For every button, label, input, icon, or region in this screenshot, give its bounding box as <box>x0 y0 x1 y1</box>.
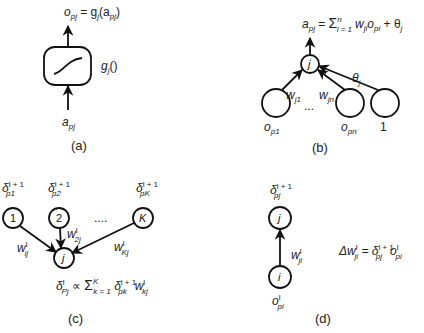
panel-d-caption: (d) <box>315 311 331 326</box>
panel-b-ellipsis: ... <box>304 99 314 113</box>
panel-c-node-2-label: 2 <box>56 212 62 224</box>
panel-b-weight-1: wj1 <box>286 88 301 104</box>
panel-d: δl + 1pj j wlji i olpi Δwlji = δl + 1pjo… <box>269 182 402 326</box>
panel-c-delta-1: δl + 1p1 <box>2 180 25 198</box>
panel-a: opj = gj(apj) gj() apj (a) <box>44 5 120 153</box>
panel-c-weight-2: wl2j <box>67 226 81 244</box>
backprop-diagram: opj = gj(apj) gj() apj (a) apj = Σni = 1… <box>0 0 424 333</box>
panel-d-weight-label: wlji <box>291 247 302 265</box>
panel-a-output-equation: opj = gj(apj) <box>64 5 120 21</box>
panel-d-top-label: δl + 1pj <box>270 182 293 200</box>
panel-b-theta-label: θj <box>352 71 361 87</box>
panel-c-delta-2: δl + 1p2 <box>48 180 71 198</box>
panel-b-edge-1 <box>282 70 302 90</box>
panel-b-bias-node <box>371 89 399 117</box>
panel-c-equation: δlPj ∝ ΣKk = 1 δl + 1pkwlkj <box>56 277 148 296</box>
panel-c-weight-K: wlKj <box>114 239 129 257</box>
panel-b-caption: (b) <box>312 140 328 155</box>
panel-b-bias-label: 1 <box>380 120 387 134</box>
panel-c-weight-1: wlij <box>17 240 28 258</box>
panel-b-input-label-n: opn <box>341 120 357 136</box>
panel-c-delta-K: δl + 1pK <box>136 180 159 198</box>
panel-a-input-label: apj <box>62 115 75 131</box>
sigmoid-activation-box <box>44 47 91 85</box>
panel-c-caption: (c) <box>68 311 83 326</box>
panel-c-node-1-label: 1 <box>10 212 16 224</box>
panel-c-edge-2 <box>60 228 61 248</box>
panel-b-weight-n: wjn <box>319 88 334 104</box>
panel-a-caption: (a) <box>71 138 87 153</box>
panel-b-equation: apj = Σni = 1wjiopi + θj <box>302 15 403 34</box>
panel-b-input-node-n <box>336 89 364 117</box>
panel-c-ellipsis: .... <box>94 211 107 225</box>
panel-a-function-label: gj() <box>101 59 117 75</box>
panel-d-equation: Δwlji = δl + 1pjolpi <box>338 243 402 261</box>
panel-d-bottom-label: olpi <box>272 293 284 311</box>
panel-b-input-label-1: op1 <box>264 120 280 136</box>
panel-b-edge-n <box>318 70 345 90</box>
panel-c-node-K-label: K <box>139 212 147 224</box>
panel-b: apj = Σni = 1wjiopi + θj j wj1 wjn θj ..… <box>262 15 403 155</box>
panel-c: δl + 1p1 δl + 1p2 δl + 1pK 1 2 K .... j … <box>2 180 159 326</box>
